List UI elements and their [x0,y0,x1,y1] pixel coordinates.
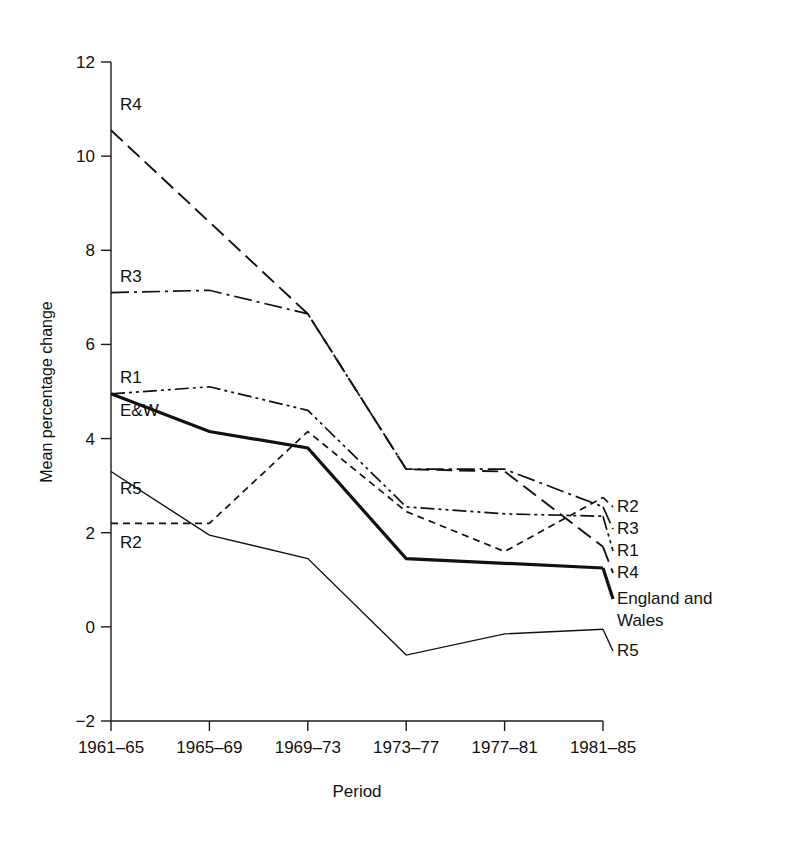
x-tick-label: 1965–69 [176,738,242,757]
y-tick-label: 2 [86,524,95,543]
left-series-labels: R4R3R1E&WR5R2 [120,95,159,552]
right-label-r2: R2 [617,497,639,516]
series-line-r3 [111,290,603,507]
y-tick-label: 6 [86,335,95,354]
right-label-r3: R3 [617,519,639,538]
x-tick-label: 1981–85 [570,738,636,757]
left-label-r1: R1 [120,368,142,387]
right-label-r5: R5 [617,641,639,660]
right-label-england-and-wales-line1: England and [617,589,712,608]
x-axis-tick-labels: 1961–651965–691969–731973–771977–811981–… [78,738,636,757]
left-label-r5: R5 [120,479,142,498]
x-tick-label: 1969–73 [275,738,341,757]
data-series-group [111,130,603,655]
x-tick-label: 1977–81 [472,738,538,757]
y-tick-label: 12 [76,53,95,72]
right-label-connector-r1 [603,516,613,551]
y-tick-label: 8 [86,241,95,260]
x-axis-title: Period [332,782,381,801]
line-chart: −2024681012 1961–651965–691969–731973–77… [0,0,797,843]
y-axis-title: Mean percentage change [38,301,55,483]
figure-container: −2024681012 1961–651965–691969–731973–77… [0,0,797,843]
right-label-connector-r5 [603,629,613,651]
x-tick-label: 1961–65 [78,738,144,757]
y-tick-label: 10 [76,147,95,166]
left-label-r2: R2 [120,533,142,552]
chart-axes [101,62,603,731]
x-tick-label: 1973–77 [373,738,439,757]
right-series-labels: R2R3R1R4England andWalesR5 [603,497,712,660]
y-tick-label: −2 [76,712,95,731]
left-label-r3: R3 [120,267,142,286]
y-axis-ticks [101,62,111,721]
left-label-eandw: E&W [120,401,159,420]
right-label-england-and-wales-line2: Wales [617,611,664,630]
y-tick-label: 0 [86,618,95,637]
x-axis-ticks [111,721,603,731]
series-line-england-and-wales [111,394,603,568]
y-tick-label: 4 [86,430,95,449]
right-label-r1: R1 [617,541,639,560]
right-label-connector-r3 [603,507,613,529]
right-label-r4: R4 [617,563,639,582]
series-line-r4 [111,130,603,547]
left-label-r4: R4 [120,95,142,114]
right-label-connector-england-and-wales [603,568,613,599]
y-axis-tick-labels: −2024681012 [76,53,95,731]
series-line-r1 [111,387,603,516]
right-label-connector-r2 [603,497,613,507]
